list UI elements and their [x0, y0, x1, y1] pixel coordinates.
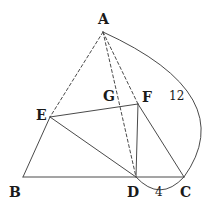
segment-ED [50, 117, 136, 177]
segment-FD [136, 104, 138, 177]
segment-EF [50, 104, 138, 117]
figure-canvas [0, 0, 208, 208]
segment-FC [138, 104, 184, 177]
cevian-AE [50, 32, 103, 117]
vertex-label-e: E [36, 108, 47, 122]
geometry-figure: ABCDEFG 124 [0, 0, 208, 208]
measure-label-12: 12 [169, 90, 184, 102]
vertex-label-c: C [180, 185, 191, 199]
vertex-label-a: A [98, 12, 109, 26]
vertex-label-g: G [103, 89, 115, 103]
cevian-AD [103, 32, 136, 177]
solid-segments-group [23, 104, 184, 177]
vertex-label-f: F [142, 90, 152, 104]
segment-BE [23, 117, 50, 177]
arcs-group [103, 32, 201, 190]
vertex-label-d: D [127, 185, 139, 199]
measure-label-4: 4 [155, 186, 163, 198]
vertex-label-b: B [9, 185, 21, 199]
dashed-segments-group [50, 32, 138, 177]
arc-A-to-C [103, 32, 201, 177]
